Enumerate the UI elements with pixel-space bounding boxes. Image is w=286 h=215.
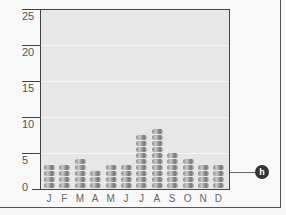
coin-icon (167, 159, 178, 164)
coin-icon (152, 159, 163, 164)
coin-icon (59, 183, 70, 188)
coin-icon (152, 135, 163, 140)
bar-4 (106, 164, 118, 188)
coin-icon (167, 153, 178, 158)
xtick-label: O (182, 193, 194, 204)
coin-icon (152, 153, 163, 158)
bar-0 (44, 164, 56, 188)
coin-icon (106, 165, 117, 170)
coin-icon (90, 171, 101, 176)
coin-icon (213, 171, 224, 176)
coin-icon (213, 165, 224, 170)
coin-icon (75, 159, 86, 164)
bar-8 (167, 152, 179, 188)
coin-icon (167, 183, 178, 188)
bar-3 (90, 170, 102, 188)
coin-icon (136, 177, 147, 182)
xtick-label: M (74, 193, 86, 204)
coin-icon (152, 141, 163, 146)
xtick-label: F (58, 193, 70, 204)
coin-icon (44, 171, 55, 176)
coin-icon (44, 177, 55, 182)
coin-icon (136, 159, 147, 164)
annotation-badge: h (255, 165, 269, 179)
bar-10 (198, 164, 210, 188)
coin-icon (152, 147, 163, 152)
ytick-label-0: 0 (22, 182, 28, 193)
coin-icon (75, 177, 86, 182)
coin-icon (44, 183, 55, 188)
coin-icon (121, 183, 132, 188)
coin-icon (213, 183, 224, 188)
coin-icon (152, 129, 163, 134)
coin-icon (152, 177, 163, 182)
xtick-label: A (151, 193, 163, 204)
plot-area (40, 9, 230, 190)
annotation-leader-line (230, 172, 255, 173)
coin-icon (183, 183, 194, 188)
coin-icon (152, 165, 163, 170)
coin-icon (106, 183, 117, 188)
coin-icon (121, 171, 132, 176)
bar-6 (136, 134, 148, 188)
coin-icon (121, 165, 132, 170)
coin-icon (59, 177, 70, 182)
coin-icon (198, 177, 209, 182)
xtick-label: A (89, 193, 101, 204)
ytick-label-10: 10 (22, 119, 34, 130)
coin-icon (136, 171, 147, 176)
coin-icon (183, 171, 194, 176)
coin-icon (183, 159, 194, 164)
coin-icon (136, 147, 147, 152)
coin-icon (106, 177, 117, 182)
coin-icon (90, 183, 101, 188)
coin-icon (183, 165, 194, 170)
ytick-label-25: 25 (22, 11, 34, 22)
xtick-label: J (43, 193, 55, 204)
coin-icon (198, 171, 209, 176)
coin-icon (136, 183, 147, 188)
ytick-label-20: 20 (22, 47, 34, 58)
bar-5 (121, 164, 133, 188)
xtick-label: D (212, 193, 224, 204)
coin-icon (136, 153, 147, 158)
xtick-label: S (166, 193, 178, 204)
bar-7 (152, 128, 164, 188)
coin-icon (90, 177, 101, 182)
coin-icon (152, 171, 163, 176)
chart-frame: 25 20 15 10 5 0 JFMAMJJASOND h (0, 0, 281, 208)
gridline-15 (41, 81, 229, 82)
coin-icon (75, 183, 86, 188)
xtick-label: N (197, 193, 209, 204)
coin-icon (183, 177, 194, 182)
coin-icon (75, 165, 86, 170)
gridline-10 (41, 117, 229, 118)
coin-icon (59, 171, 70, 176)
gridline-5 (41, 153, 229, 154)
coin-icon (106, 171, 117, 176)
coin-icon (121, 177, 132, 182)
coin-icon (167, 171, 178, 176)
xtick-label: J (120, 193, 132, 204)
coin-icon (136, 165, 147, 170)
coin-icon (167, 177, 178, 182)
coin-icon (213, 177, 224, 182)
bar-9 (183, 158, 195, 188)
coin-icon (44, 165, 55, 170)
coin-icon (75, 171, 86, 176)
coin-icon (167, 165, 178, 170)
coin-icon (198, 183, 209, 188)
ytick-label-5: 5 (22, 155, 28, 166)
ytick-label-15: 15 (22, 83, 34, 94)
coin-icon (136, 135, 147, 140)
gridline-20 (41, 45, 229, 46)
coin-icon (152, 183, 163, 188)
xtick-label: M (105, 193, 117, 204)
bar-11 (213, 164, 225, 188)
xtick-label: J (135, 193, 147, 204)
bar-1 (59, 164, 71, 188)
ytick-0 (32, 189, 40, 190)
coin-icon (198, 165, 209, 170)
coin-icon (136, 141, 147, 146)
coin-icon (59, 165, 70, 170)
